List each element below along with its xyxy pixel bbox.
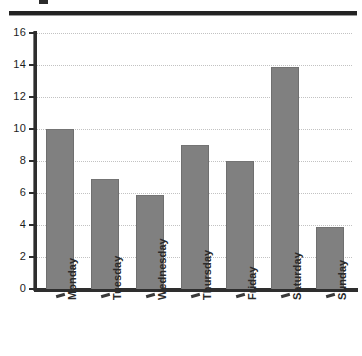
x-axis-tick-mark (55, 293, 64, 298)
y-axis-tick-label: 0 (0, 282, 26, 294)
x-axis-tick-mark (280, 293, 289, 298)
y-axis-tick-mark (29, 288, 35, 290)
x-axis-tick-mark (235, 293, 244, 298)
y-axis-tick-mark (29, 224, 35, 226)
gridline (37, 65, 352, 66)
x-axis-tick-mark (100, 293, 109, 298)
y-axis-tick-mark (29, 256, 35, 258)
y-axis-tick-mark (29, 128, 35, 130)
x-axis-tick-label: Sunday (336, 260, 348, 300)
y-axis-tick-label: 8 (0, 154, 26, 166)
x-axis-tick-label: Monday (66, 258, 78, 300)
header-divider-rule-shadow (9, 15, 357, 16)
y-axis-tick-label: 6 (0, 186, 26, 198)
y-axis-tick-label: 2 (0, 250, 26, 262)
y-axis-tick-mark (29, 160, 35, 162)
y-axis-tick-label: 4 (0, 218, 26, 230)
x-axis-tick-mark (190, 293, 199, 298)
cropped-header-text-sliver (39, 0, 48, 4)
x-axis-tick-mark (145, 293, 154, 298)
x-axis-tick-label: Friday (246, 266, 258, 300)
y-axis-tick-mark (29, 32, 35, 34)
plot-area (37, 33, 352, 289)
y-axis-tick-label: 12 (0, 90, 26, 102)
chart-page: 0246810121416 MondayTuesdayWednesdayThur… (0, 0, 362, 356)
x-axis-tick-mark (325, 293, 334, 298)
gridline (37, 33, 352, 34)
y-axis-tick-label: 14 (0, 58, 26, 70)
y-axis-tick-mark (29, 192, 35, 194)
gridline (37, 97, 352, 98)
gridline (37, 129, 352, 130)
y-axis-tick-mark (29, 64, 35, 66)
x-axis-tick-label: Tuesday (111, 255, 123, 300)
y-axis-tick-label: 16 (0, 26, 26, 38)
y-axis-tick-label: 10 (0, 122, 26, 134)
x-axis-tick-label: Thursday (201, 250, 213, 300)
x-axis-tick-label: Wednesday (156, 238, 168, 300)
x-axis-tick-label: Saturday (291, 252, 303, 300)
y-axis-tick-mark (29, 96, 35, 98)
